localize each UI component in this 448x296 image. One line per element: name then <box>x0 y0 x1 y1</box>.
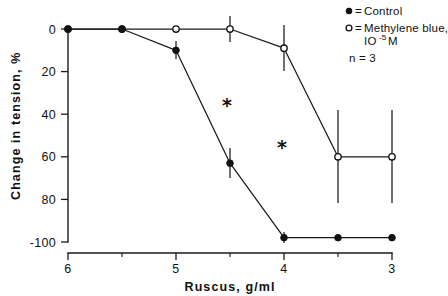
methylene-blue-point-3 <box>389 154 395 160</box>
control-point-5 <box>173 47 180 54</box>
x-ticklabel-4: 4 <box>280 262 287 276</box>
open-circle-icon <box>346 25 352 31</box>
legend-entry-methylene-blue: = Methylene blue, IO -5 M <box>346 22 448 47</box>
x-ticklabel-5: 5 <box>172 262 179 276</box>
x-ticklabel-3: 3 <box>388 262 395 276</box>
filled-circle-icon <box>346 8 352 14</box>
methylene-blue-point-3p5 <box>335 154 341 160</box>
control-point-3 <box>389 234 396 241</box>
y-ticklabel-minus100: -100 <box>30 236 56 250</box>
y-axis-title: Change in tension, % <box>9 52 23 200</box>
control-line <box>68 29 392 238</box>
x-axis-group: 6 5 4 3 Ruscus, g/ml <box>64 253 395 294</box>
y-ticklabel-60: 60 <box>41 150 56 164</box>
control-point-4 <box>281 234 288 241</box>
y-ticklabel-20: 20 <box>41 65 56 79</box>
control-point-4p5 <box>227 160 234 167</box>
legend-mb-conc-base: IO <box>364 35 377 47</box>
legend-mb-conc-tail: M <box>388 35 398 47</box>
legend-entry-control: = Control <box>346 5 402 17</box>
legend-sample-size: n = 3 <box>349 52 376 64</box>
legend-control-eq: = <box>355 5 362 17</box>
chart-legend: = Control = Methylene blue, IO -5 M n = … <box>346 5 448 64</box>
y-ticklabel-40: 40 <box>41 108 56 122</box>
significance-asterisk-2: * <box>277 136 287 158</box>
x-axis-title: Ruscus, g/ml <box>185 280 276 294</box>
y-ticklabel-80: 80 <box>41 193 56 207</box>
methylene-blue-point-4p5 <box>227 26 233 32</box>
legend-mb-conc-superscript: -5 <box>379 33 387 42</box>
legend-entry-n: n = 3 <box>349 52 376 64</box>
y-ticklabel-0: 0 <box>49 23 56 37</box>
figure-panel: 0 20 40 60 80 -100 Change in tension, % … <box>0 0 448 296</box>
significance-markers: * * <box>222 94 287 158</box>
legend-mb-label: Methylene blue, <box>364 22 448 34</box>
legend-mb-eq: = <box>355 22 362 34</box>
methylene-blue-point-5 <box>173 26 179 32</box>
x-ticklabel-6: 6 <box>64 262 71 276</box>
chart-svg: 0 20 40 60 80 -100 Change in tension, % … <box>0 0 448 296</box>
series-control <box>65 26 396 243</box>
methylene-blue-line <box>68 29 392 157</box>
significance-asterisk-1: * <box>222 94 232 116</box>
methylene-blue-point-4 <box>281 45 287 51</box>
control-point-3p5 <box>335 234 342 241</box>
y-axis-group: 0 20 40 60 80 -100 Change in tension, % <box>9 23 68 250</box>
legend-control-label: Control <box>364 5 402 17</box>
control-point-6 <box>65 26 72 33</box>
control-point-5p5 <box>119 26 126 33</box>
